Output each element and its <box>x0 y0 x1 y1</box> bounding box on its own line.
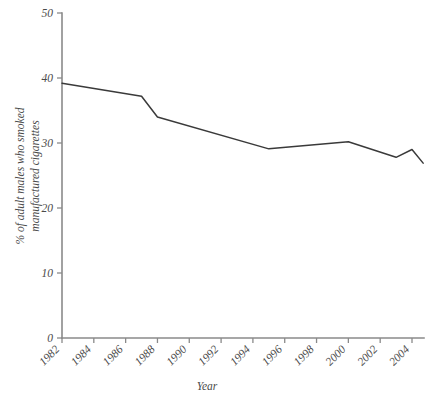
chart-container: 01020304050 1982198419861988199019921994… <box>0 0 431 399</box>
chart-background <box>0 0 431 399</box>
y-tick-label: 40 <box>42 72 54 84</box>
x-axis-title: Year <box>197 380 218 392</box>
y-axis-title-line1: % of adult males who smoked <box>14 107 27 244</box>
line-chart: 01020304050 1982198419861988199019921994… <box>0 0 431 399</box>
y-tick-label: 0 <box>47 332 53 344</box>
y-tick-label: 30 <box>41 137 54 149</box>
y-tick-label: 50 <box>42 7 54 19</box>
y-tick-label: 10 <box>42 267 54 279</box>
y-tick-label: 20 <box>42 202 54 214</box>
y-axis-title-line2: manufactured cigarettes <box>29 120 42 232</box>
